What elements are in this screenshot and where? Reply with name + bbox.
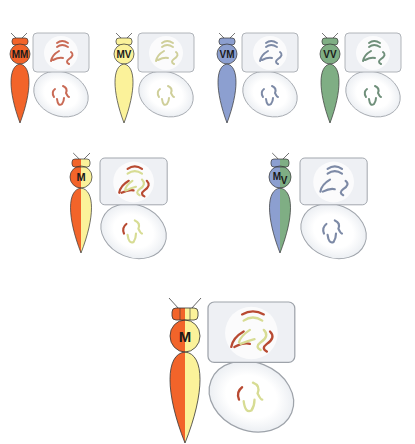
cell-unit-vm — [236, 33, 304, 125]
genotype-label: M — [179, 328, 192, 345]
cell-unit-hybrid-m — [93, 158, 175, 268]
cell-unit-offspring — [198, 302, 304, 444]
cell-unit-mm — [27, 33, 95, 125]
parent-insect-mm: MM — [10, 33, 30, 123]
genotype-label: MM — [12, 49, 29, 60]
hybrid-insect-m: M — [70, 153, 92, 253]
diagram-canvas: MM MV VM — [0, 0, 415, 444]
genotype-label-sub: V — [281, 175, 288, 186]
cell-unit-mv — [132, 33, 200, 125]
genotype-label: VM — [220, 49, 235, 60]
cell-unit-vv — [339, 33, 407, 125]
cell-unit-hybrid-mv — [293, 158, 375, 268]
parent-insect-vm: VM — [217, 33, 237, 123]
offspring-insect-m: M — [169, 298, 201, 443]
genotype-label: VV — [323, 49, 337, 60]
genotype-label: MV — [117, 49, 132, 60]
parent-insect-mv: MV — [114, 33, 134, 123]
hybrid-insect-mv: M V — [269, 153, 291, 253]
parent-insect-vv: VV — [320, 33, 340, 123]
genotype-label: M — [76, 171, 85, 183]
